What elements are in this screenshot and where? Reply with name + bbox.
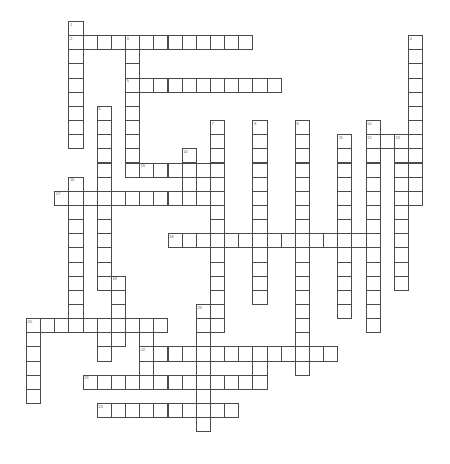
crossword-cell[interactable]	[54, 318, 69, 333]
crossword-cell[interactable]	[408, 106, 423, 121]
crossword-cell[interactable]	[168, 163, 183, 178]
crossword-cell[interactable]	[295, 219, 310, 234]
crossword-cell[interactable]	[337, 219, 352, 234]
crossword-cell[interactable]	[408, 134, 423, 149]
crossword-cell[interactable]	[210, 78, 225, 93]
crossword-cell[interactable]	[97, 148, 112, 163]
crossword-cell[interactable]	[267, 346, 282, 361]
crossword-cell[interactable]	[68, 205, 83, 220]
crossword-cell[interactable]	[26, 332, 41, 347]
crossword-cell[interactable]	[252, 163, 267, 178]
crossword-cell[interactable]	[224, 346, 239, 361]
crossword-cell[interactable]	[196, 389, 211, 404]
crossword-cell[interactable]	[111, 35, 126, 50]
crossword-cell[interactable]	[125, 49, 140, 64]
crossword-cell[interactable]	[196, 375, 211, 390]
crossword-cell[interactable]	[210, 276, 225, 291]
crossword-cell[interactable]	[267, 233, 282, 248]
crossword-cell[interactable]	[394, 148, 409, 163]
crossword-cell[interactable]: 20	[26, 318, 41, 333]
crossword-cell[interactable]	[252, 134, 267, 149]
crossword-cell[interactable]	[337, 233, 352, 248]
crossword-cell[interactable]	[380, 134, 395, 149]
crossword-cell[interactable]	[210, 233, 225, 248]
crossword-cell[interactable]	[111, 191, 126, 206]
crossword-cell[interactable]	[97, 134, 112, 149]
crossword-cell[interactable]	[196, 233, 211, 248]
crossword-cell[interactable]	[295, 276, 310, 291]
crossword-cell[interactable]	[366, 304, 381, 319]
crossword-cell[interactable]	[210, 318, 225, 333]
crossword-cell[interactable]	[125, 134, 140, 149]
crossword-cell[interactable]	[196, 318, 211, 333]
crossword-cell[interactable]	[238, 375, 253, 390]
crossword-cell[interactable]	[295, 304, 310, 319]
crossword-cell[interactable]	[252, 346, 267, 361]
crossword-cell[interactable]	[68, 191, 83, 206]
crossword-cell[interactable]	[394, 247, 409, 262]
crossword-cell[interactable]	[252, 375, 267, 390]
crossword-cell[interactable]	[97, 177, 112, 192]
crossword-cell[interactable]	[182, 403, 197, 418]
crossword-cell[interactable]	[97, 163, 112, 178]
crossword-cell[interactable]	[210, 346, 225, 361]
crossword-cell[interactable]	[337, 304, 352, 319]
crossword-cell[interactable]	[252, 290, 267, 305]
crossword-cell[interactable]	[252, 78, 267, 93]
crossword-cell[interactable]	[295, 177, 310, 192]
crossword-cell[interactable]	[153, 78, 168, 93]
crossword-cell[interactable]	[26, 375, 41, 390]
crossword-cell[interactable]	[97, 120, 112, 135]
crossword-cell[interactable]	[125, 318, 140, 333]
crossword-cell[interactable]	[139, 191, 154, 206]
crossword-cell[interactable]	[366, 148, 381, 163]
crossword-cell[interactable]: 1	[68, 21, 83, 36]
crossword-cell[interactable]	[26, 389, 41, 404]
crossword-cell[interactable]	[97, 35, 112, 50]
crossword-cell[interactable]	[337, 262, 352, 277]
crossword-cell[interactable]	[125, 375, 140, 390]
crossword-cell[interactable]	[210, 148, 225, 163]
crossword-cell[interactable]	[295, 332, 310, 347]
crossword-cell[interactable]: 8	[252, 120, 267, 135]
crossword-cell[interactable]	[68, 262, 83, 277]
crossword-cell[interactable]	[68, 290, 83, 305]
crossword-cell[interactable]	[394, 177, 409, 192]
crossword-cell[interactable]	[168, 191, 183, 206]
crossword-cell[interactable]	[196, 417, 211, 432]
crossword-cell[interactable]	[295, 191, 310, 206]
crossword-cell[interactable]	[309, 233, 324, 248]
crossword-cell[interactable]: 6	[97, 106, 112, 121]
crossword-cell[interactable]	[83, 191, 98, 206]
crossword-cell[interactable]: 2	[68, 35, 83, 50]
crossword-cell[interactable]	[182, 375, 197, 390]
crossword-cell[interactable]	[68, 78, 83, 93]
crossword-cell[interactable]	[111, 304, 126, 319]
crossword-cell[interactable]	[295, 233, 310, 248]
crossword-cell[interactable]	[196, 35, 211, 50]
crossword-cell[interactable]	[252, 361, 267, 376]
crossword-cell[interactable]	[337, 177, 352, 192]
crossword-cell[interactable]	[252, 148, 267, 163]
crossword-cell[interactable]	[337, 247, 352, 262]
crossword-cell[interactable]: 22	[139, 346, 154, 361]
crossword-cell[interactable]	[97, 205, 112, 220]
crossword-cell[interactable]: 19	[111, 276, 126, 291]
crossword-cell[interactable]	[366, 233, 381, 248]
crossword-cell[interactable]	[366, 318, 381, 333]
crossword-cell[interactable]	[111, 332, 126, 347]
crossword-cell[interactable]	[210, 290, 225, 305]
crossword-cell[interactable]	[252, 191, 267, 206]
crossword-cell[interactable]	[153, 403, 168, 418]
crossword-cell[interactable]	[351, 233, 366, 248]
crossword-cell[interactable]	[168, 35, 183, 50]
crossword-cell[interactable]	[125, 120, 140, 135]
crossword-cell[interactable]	[68, 318, 83, 333]
crossword-cell[interactable]	[394, 219, 409, 234]
crossword-cell[interactable]: 24	[97, 403, 112, 418]
crossword-cell[interactable]	[196, 346, 211, 361]
crossword-cell[interactable]	[408, 120, 423, 135]
crossword-cell[interactable]	[295, 205, 310, 220]
crossword-cell[interactable]	[168, 375, 183, 390]
crossword-cell[interactable]	[210, 247, 225, 262]
